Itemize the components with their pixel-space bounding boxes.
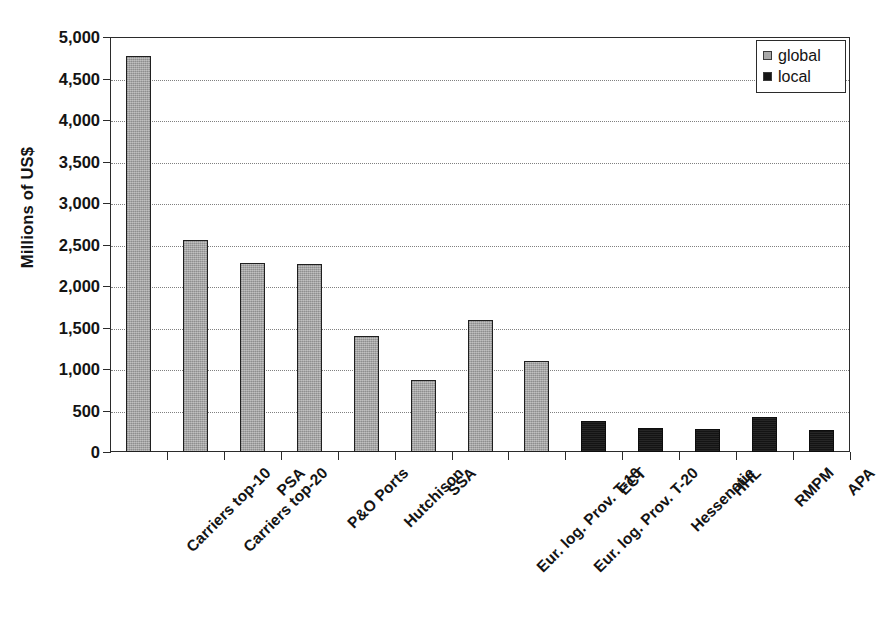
x-axis-tick-mark: [793, 452, 794, 460]
legend-swatch-local-icon: [763, 72, 772, 81]
y-axis-tick-label: 500: [14, 401, 100, 420]
bar-local[interactable]: [752, 417, 777, 452]
x-axis-tick-mark: [224, 452, 225, 460]
x-axis-tick-label: APA: [843, 464, 878, 499]
y-axis-tick-label: 3,500: [14, 152, 100, 171]
bar-global[interactable]: [126, 56, 151, 452]
y-axis-tick-label: 4,500: [14, 69, 100, 88]
gridline: [111, 80, 849, 81]
bar-global[interactable]: [297, 264, 322, 452]
x-axis-tick-mark: [281, 452, 282, 460]
bar-local[interactable]: [581, 421, 606, 452]
x-axis-tick-label: P&O Ports: [344, 464, 412, 532]
bar-local[interactable]: [809, 430, 834, 452]
x-axis-tick-mark: [338, 452, 339, 460]
bar-global[interactable]: [468, 320, 493, 452]
bar-chart-figure: Millions of US$ 05001,0001,5002,0002,500…: [0, 0, 881, 621]
bar-global[interactable]: [524, 361, 549, 452]
gridline: [111, 163, 849, 164]
y-axis-tick-label: 5,000: [14, 28, 100, 47]
legend: globallocal: [756, 40, 846, 93]
gridline: [111, 287, 849, 288]
x-axis-tick-mark: [452, 452, 453, 460]
y-axis-tick-labels: 05001,0001,5002,0002,5003,0003,5004,0004…: [0, 0, 100, 621]
x-axis-tick-mark: [679, 452, 680, 460]
bar-local[interactable]: [695, 429, 720, 452]
legend-item-global[interactable]: global: [763, 45, 840, 66]
y-axis-tick-label: 0: [14, 443, 100, 462]
x-axis-tick-mark: [395, 452, 396, 460]
bar-global[interactable]: [411, 380, 436, 452]
x-axis-tick-mark: [565, 452, 566, 460]
y-axis-tick-label: 2,500: [14, 235, 100, 254]
legend-swatch-global-icon: [763, 51, 772, 60]
bar-global[interactable]: [354, 336, 379, 452]
gridline: [111, 121, 849, 122]
y-axis-tick-label: 1,500: [14, 318, 100, 337]
x-axis-tick-mark: [622, 452, 623, 460]
gridline: [111, 246, 849, 247]
y-axis-tick-mark: [103, 452, 111, 453]
legend-item-local[interactable]: local: [763, 66, 840, 87]
bar-local[interactable]: [638, 428, 663, 452]
y-axis-tick-label: 4,000: [14, 111, 100, 130]
y-axis-tick-label: 2,000: [14, 277, 100, 296]
x-axis-tick-mark: [508, 452, 509, 460]
x-axis-tick-mark: [850, 452, 851, 460]
x-axis-tick-mark: [167, 452, 168, 460]
y-axis-tick-label: 3,000: [14, 194, 100, 213]
x-axis-tick-label: Eur. log. Prov. T-20: [590, 464, 702, 576]
y-axis-tick-label: 1,000: [14, 360, 100, 379]
gridline: [111, 204, 849, 205]
bar-global[interactable]: [183, 240, 208, 452]
x-axis-tick-mark: [736, 452, 737, 460]
legend-label: local: [778, 69, 811, 85]
legend-label: global: [778, 48, 821, 64]
bar-global[interactable]: [240, 263, 265, 452]
x-axis-tick-label: RMPM: [791, 464, 838, 511]
